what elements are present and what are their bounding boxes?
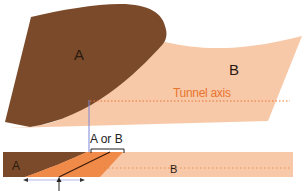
label-a-or-b: A or B (90, 133, 123, 145)
label-tunnel-axis: Tunnel axis (173, 87, 231, 99)
arrow-right-icon (80, 178, 85, 182)
arrow-left-icon (23, 178, 28, 182)
diagram-canvas (0, 0, 305, 191)
span-arrow (23, 178, 85, 182)
label-material-b-top: B (229, 62, 239, 77)
label-material-b-bottom: B (170, 164, 177, 175)
label-material-a-bottom: A (12, 160, 20, 172)
label-material-a-top: A (74, 47, 84, 62)
arrow-up-icon (57, 177, 62, 191)
